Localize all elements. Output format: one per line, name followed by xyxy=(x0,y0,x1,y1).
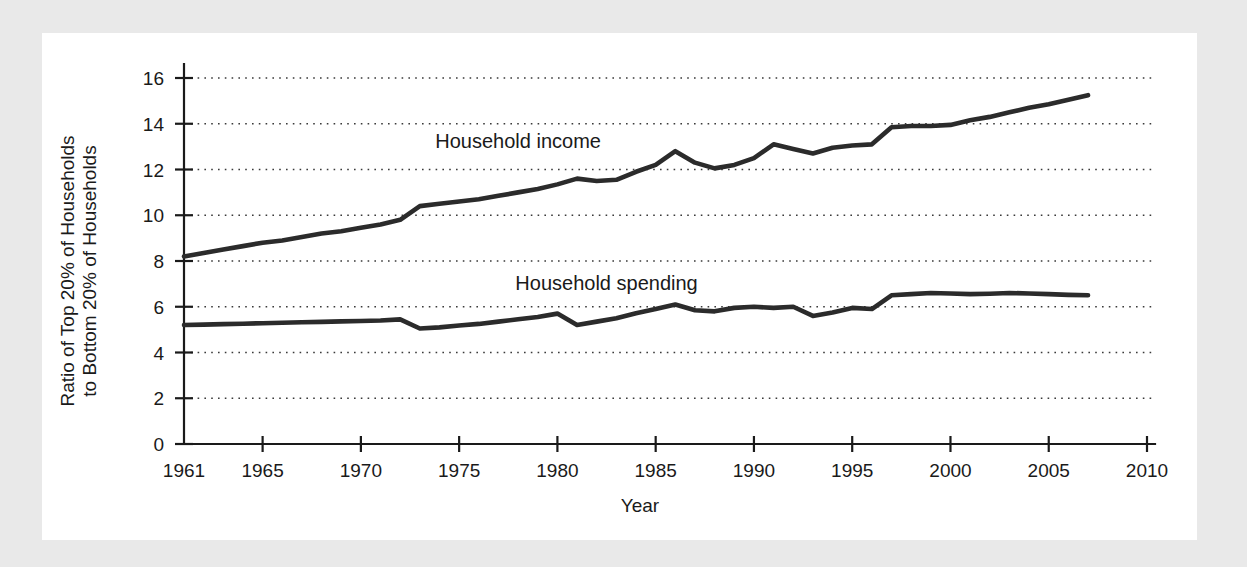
axes xyxy=(184,64,1155,444)
y-tick-label-12: 12 xyxy=(143,160,164,181)
y-tick-label-16: 16 xyxy=(143,68,164,89)
x-tick-label-2000: 2000 xyxy=(929,460,971,481)
x-tick-label-1970: 1970 xyxy=(340,460,382,481)
series-line-household-income xyxy=(184,95,1088,256)
x-tick-label-2005: 2005 xyxy=(1028,460,1070,481)
x-tick-label-2010: 2010 xyxy=(1126,460,1168,481)
y-axis-tick-labels: 0246810121416 xyxy=(143,68,165,455)
y-tick-label-8: 8 xyxy=(153,251,164,272)
series-label-household-income: Household income xyxy=(435,130,601,152)
y-axis-title-line2: to Bottom 20% of Households xyxy=(79,145,100,396)
chart-canvas: 1961196519701975198019851990199520002005… xyxy=(42,33,1197,540)
x-tick-label-1980: 1980 xyxy=(536,460,578,481)
x-axis-title: Year xyxy=(621,495,660,516)
x-tick-label-1975: 1975 xyxy=(438,460,480,481)
figure-panel: 1961196519701975198019851990199520002005… xyxy=(42,33,1197,540)
x-tick-label-1985: 1985 xyxy=(635,460,677,481)
series-label-household-spending: Household spending xyxy=(515,272,697,294)
series-annotations: Household incomeHousehold spending xyxy=(435,130,697,294)
y-axis-title: Ratio of Top 20% of Households to Bottom… xyxy=(57,135,100,406)
y-tick-label-6: 6 xyxy=(153,297,164,318)
x-tick-label-1965: 1965 xyxy=(241,460,283,481)
y-tick-label-10: 10 xyxy=(143,205,164,226)
y-tick-label-4: 4 xyxy=(153,343,164,364)
x-tick-label-1990: 1990 xyxy=(733,460,775,481)
line-chart: 1961196519701975198019851990199520002005… xyxy=(42,33,1197,540)
x-tick-label-1961: 1961 xyxy=(163,460,205,481)
series-line-household-spending xyxy=(184,293,1088,328)
x-axis-tick-labels: 1961196519701975198019851990199520002005… xyxy=(163,460,1168,481)
gridlines xyxy=(184,78,1155,398)
x-tick-label-1995: 1995 xyxy=(831,460,873,481)
y-tick-label-2: 2 xyxy=(153,388,164,409)
y-tick-label-14: 14 xyxy=(143,114,165,135)
y-tick-label-0: 0 xyxy=(153,434,164,455)
y-axis-title-line1: Ratio of Top 20% of Households xyxy=(57,135,78,406)
